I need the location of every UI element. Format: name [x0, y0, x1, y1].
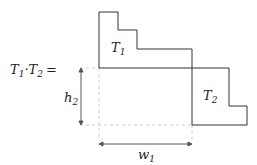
diagram-canvas: T1·T2= T1 T2 h2 w1 [0, 0, 257, 165]
label-t2: T2 [203, 88, 218, 105]
label-w1: w1 [138, 147, 155, 164]
dashed-guides [80, 68, 192, 140]
diagram: T1·T2= T1 T2 h2 w1 [0, 0, 257, 165]
equation-lhs: T1·T2= [10, 62, 57, 79]
h2-arrow [79, 68, 83, 125]
w1-arrow [99, 142, 192, 146]
label-t1: T1 [111, 40, 125, 57]
label-h2: h2 [64, 90, 78, 107]
t1-outline [99, 12, 247, 125]
